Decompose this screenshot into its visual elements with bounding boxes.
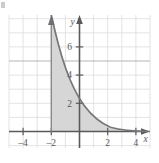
y-tick-label-2: 2 [67, 99, 72, 109]
x-tick-label-minus-2: –2 [46, 138, 57, 148]
coordinate-plot: –4 –2 2 4 6 4 2 x y [0, 0, 159, 163]
x-tick-label-4: 4 [134, 138, 139, 148]
x-tick-label-minus-4: –4 [17, 138, 28, 148]
math-figure: –4 –2 2 4 6 4 2 x y [0, 0, 159, 163]
y-tick-label-4: 4 [67, 70, 72, 80]
x-tick-label-2: 2 [105, 138, 110, 148]
y-axis-label: y [69, 17, 75, 27]
y-tick-label-6: 6 [67, 42, 72, 52]
x-axis-label: x [142, 134, 148, 144]
